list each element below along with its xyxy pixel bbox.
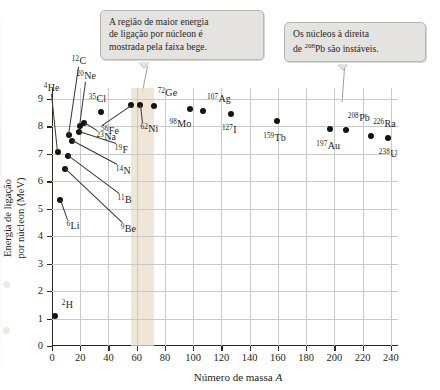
gridline-horizontal [52,291,398,292]
callout-band-line3: mostrada pela faixa bege. [109,41,255,53]
y-axis-tick [47,264,52,265]
y-axis-tick [47,209,52,210]
x-axis-tick [250,346,251,351]
point-label: 9Be [121,223,136,234]
point-label: 226Ra [373,118,396,129]
y-axis-tick [47,126,52,127]
point-label: 11B [118,194,132,205]
x-axis-tick-label: 140 [242,353,258,364]
y-axis-tick-label: 5 [38,204,43,215]
data-point [98,109,104,115]
scan-speck [3,327,10,334]
point-label: 35Cl [89,94,106,105]
callout-band-note: A região de maior energia de ligação por… [100,10,264,60]
scan-speck [3,281,10,288]
point-label: 6Li [66,220,79,231]
y-axis-tick [47,154,52,155]
point-label: 238U [379,149,398,160]
point-label: 20Ne [76,70,96,81]
y-axis-tick-label: 7 [38,149,43,160]
point-label: 98Mo [170,118,192,129]
x-axis-tick [363,346,364,351]
y-axis-tick [47,346,52,347]
point-label: 12C [72,56,86,67]
y-axis-tick-label: 3 [38,258,43,269]
binding-energy-figure: A região de maior energia de ligação por… [0,0,440,390]
y-axis-tick-label: 0 [38,341,43,352]
point-label-leader [65,168,123,223]
x-axis-tick [80,346,81,351]
x-axis-tick-label: 40 [103,353,114,364]
gridline-horizontal [52,319,398,320]
x-axis-title: Número de massa A [194,371,282,383]
data-point [274,118,280,124]
x-axis-tick-label: 120 [214,353,230,364]
x-axis [52,345,398,346]
x-axis-tick [193,346,194,351]
point-label: 14N [116,165,131,176]
point-label: 107Ag [207,94,231,105]
gridline-horizontal [52,154,398,155]
x-axis-tick-label: 0 [49,353,54,364]
point-label: 159Tb [263,133,286,144]
point-label: 127I [222,125,237,136]
y-axis-tick [47,291,52,292]
y-axis-tick-label: 4 [38,231,43,242]
x-axis-tick-label: 220 [355,353,371,364]
plot-area: 0204060801001201401601802002202400123456… [52,88,398,346]
x-axis-tick-label: 60 [131,353,142,364]
point-label-leader [102,105,131,126]
x-axis-tick [137,346,138,351]
point-label: 56Fe [101,125,119,136]
point-label: 4He [44,83,60,94]
x-axis-tick [221,346,222,351]
callout-instability-line2: de 208Pb são instáveis. [293,40,417,55]
y-axis-title: Energia de ligaçãopor núcleon (MeV) [1,177,27,258]
x-axis-tick [52,346,53,351]
data-point [368,133,374,139]
callout-instability-superscript: 208 [304,42,315,50]
x-axis-tick-label: 20 [75,353,86,364]
y-axis-tick-label: 1 [38,313,43,324]
data-point [385,135,391,141]
x-axis-tick-label: 200 [327,353,343,364]
x-axis-tick [306,346,307,351]
point-label: 62Ni [141,123,159,134]
data-point [187,106,193,112]
x-axis-tick [278,346,279,351]
callout-band-line1: A região de maior energia [109,16,255,28]
y-axis-tick-label: 8 [38,121,43,132]
data-point [52,313,58,319]
x-axis-tick-label: 240 [383,353,399,364]
x-axis-tick [165,346,166,351]
y-axis-tick-label: 2 [38,286,43,297]
y-axis-tick-label: 9 [38,94,43,105]
y-axis-tick [47,319,52,320]
data-point [228,111,234,117]
point-label: 19F [115,145,128,156]
callout-instability-suffix: Pb são instáveis. [315,43,379,54]
point-label: 197Au [316,140,340,151]
x-axis-tick-label: 180 [298,353,314,364]
point-label: 208Pb [348,113,370,124]
callout-band-line2: de ligação por núcleon é [109,28,255,40]
x-axis-tick-label: 100 [185,353,201,364]
gridline-horizontal [52,264,398,265]
gridline-horizontal [52,209,398,210]
point-label: 2H [62,299,73,310]
y-axis-tick-label: 6 [38,176,43,187]
callout-instability-prefix: de [293,43,304,54]
data-point [327,126,333,132]
x-axis-tick [334,346,335,351]
callout-instability-line1: Os núcleos à direita [293,28,417,40]
point-label: 72Ge [158,88,178,99]
callout-instability-note: Os núcleos à direita de 208Pb são instáv… [284,22,426,62]
gridline-horizontal [52,236,398,237]
point-label-leader [72,140,117,165]
x-axis-tick-label: 160 [270,353,286,364]
data-point [200,108,206,114]
y-axis-tick [47,181,52,182]
data-point [343,127,349,133]
x-axis-tick [108,346,109,351]
y-axis-tick [47,236,52,237]
